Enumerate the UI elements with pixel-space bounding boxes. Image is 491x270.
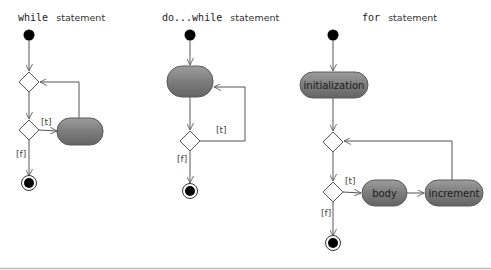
guard-false-label: [f] bbox=[177, 154, 187, 164]
do-while-diagram: do...while statement [t] [f] bbox=[162, 6, 279, 199]
flow-arrow bbox=[39, 130, 57, 131]
activity-action-state bbox=[57, 118, 103, 145]
flow-arrow bbox=[343, 192, 361, 193]
guard-true-label: [t] bbox=[41, 117, 52, 127]
while-title-rest: statement bbox=[56, 12, 105, 23]
while-title: while statement bbox=[18, 6, 105, 25]
decision-diamond-icon bbox=[19, 120, 39, 140]
initial-node-icon bbox=[328, 30, 339, 41]
initial-node-icon bbox=[185, 30, 196, 41]
decision-diamond-icon bbox=[180, 131, 200, 151]
merge-diamond-icon bbox=[19, 72, 39, 92]
do-while-title-keyword: do...while bbox=[162, 12, 222, 23]
guard-false-label: [f] bbox=[321, 208, 331, 218]
final-node-core-icon bbox=[185, 186, 195, 196]
guard-true-label: [t] bbox=[216, 125, 227, 135]
increment-label: increment bbox=[429, 188, 480, 199]
final-node-core-icon bbox=[24, 178, 34, 188]
initial-node-icon bbox=[24, 30, 35, 41]
do-while-title: do...while statement bbox=[162, 6, 279, 25]
while-diagram: while statement [t] [f] bbox=[16, 6, 105, 191]
guard-false-label: [f] bbox=[16, 149, 26, 159]
final-node-core-icon bbox=[328, 238, 338, 248]
while-title-keyword: while bbox=[18, 12, 48, 23]
do-while-title-rest: statement bbox=[230, 12, 279, 23]
activity-diagrams-canvas: while statement [t] [f] do...while state… bbox=[0, 0, 491, 270]
initialization-label: initialization bbox=[304, 80, 365, 91]
body-label: body bbox=[372, 188, 397, 199]
activity-action-state bbox=[167, 66, 213, 97]
loop-back-arrow bbox=[40, 82, 79, 118]
guard-true-label: [t] bbox=[345, 176, 356, 186]
for-title-rest: statement bbox=[388, 12, 437, 23]
decision-diamond-icon bbox=[323, 182, 343, 202]
for-title-keyword: for bbox=[362, 12, 380, 23]
merge-diamond-icon bbox=[323, 132, 343, 152]
for-diagram: for statement initialization [t] body in… bbox=[300, 6, 483, 251]
for-title: for statement bbox=[362, 6, 437, 25]
loop-back-arrow bbox=[344, 141, 452, 180]
